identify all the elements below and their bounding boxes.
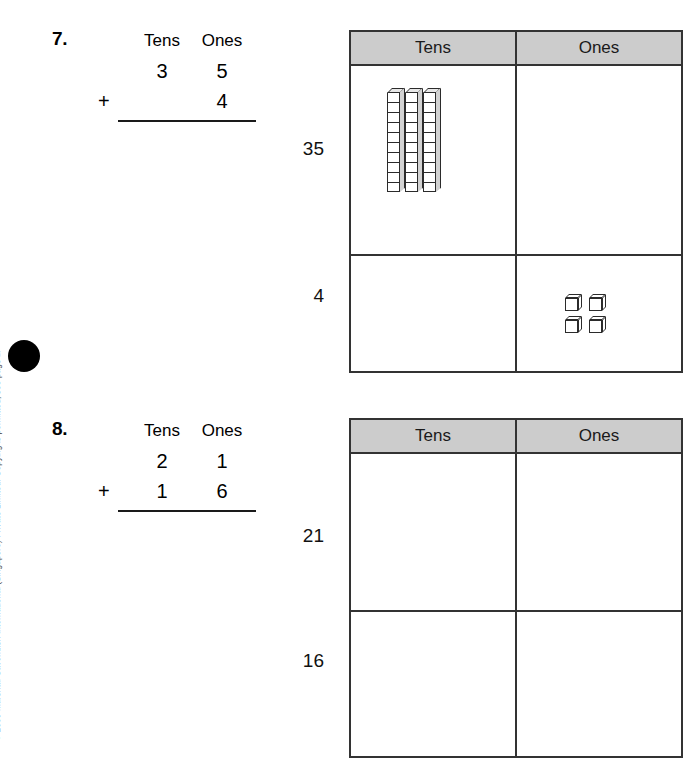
problem-7-cell-tens-2[interactable] bbox=[351, 256, 517, 371]
problem-8-number: 8. bbox=[52, 418, 67, 440]
sum-addend2-row: + 4 bbox=[98, 86, 258, 116]
problem-7-table-row-2 bbox=[351, 254, 681, 371]
unit-cube-icon bbox=[565, 294, 582, 311]
problem-8-table-row-1 bbox=[351, 454, 681, 610]
problem-8-row-label-1: 21 bbox=[280, 525, 324, 547]
problem-8-sum: Tens Ones 2 1 + 1 6 bbox=[98, 416, 258, 512]
page-marker-dot bbox=[8, 340, 40, 372]
tens-rod-icon bbox=[423, 92, 436, 192]
problem-7-cell-ones-1[interactable] bbox=[517, 66, 681, 254]
copyright-text: © 2009 Marshall Cavendish International … bbox=[0, 351, 2, 741]
sum-addend2-ones: 4 bbox=[192, 90, 252, 113]
sum-header-row: Tens Ones bbox=[98, 416, 258, 446]
sum-addend1-row: 2 1 bbox=[98, 446, 258, 476]
problem-8-cell-ones-1[interactable] bbox=[517, 454, 681, 610]
tens-rods-group bbox=[387, 92, 436, 192]
sum-addend2-ones: 6 bbox=[192, 480, 252, 503]
problem-7-header-tens: Tens bbox=[351, 32, 517, 64]
ones-cubes-group bbox=[565, 294, 613, 338]
problem-7-row-label-2: 4 bbox=[280, 285, 324, 307]
sum-header-tens: Tens bbox=[132, 31, 192, 51]
sum-addend1-ones: 5 bbox=[192, 60, 252, 83]
problem-8-cell-tens-2[interactable] bbox=[351, 612, 517, 758]
sum-addend1-tens: 3 bbox=[132, 60, 192, 83]
problem-7-place-value-table: Tens Ones bbox=[349, 30, 683, 373]
problem-7-row-label-1: 35 bbox=[280, 138, 324, 160]
sum-addend2-tens: 1 bbox=[132, 480, 192, 503]
sum-header-ones: Ones bbox=[192, 421, 252, 441]
problem-7-table-header: Tens Ones bbox=[351, 32, 681, 66]
sum-header-tens: Tens bbox=[132, 421, 192, 441]
sum-rule-line bbox=[118, 510, 256, 512]
problem-8-place-value-table: Tens Ones bbox=[349, 418, 683, 758]
tens-rod-icon bbox=[387, 92, 400, 192]
problem-8-row-label-2: 16 bbox=[280, 650, 324, 672]
problem-8-header-tens: Tens bbox=[351, 420, 517, 452]
sum-rule-line bbox=[118, 120, 256, 122]
unit-cube-icon bbox=[589, 294, 606, 311]
sum-header-row: Tens Ones bbox=[98, 26, 258, 56]
problem-7-header-ones: Ones bbox=[517, 32, 681, 64]
problem-7-cell-ones-2[interactable] bbox=[517, 256, 681, 371]
problem-8-table-row-2 bbox=[351, 610, 681, 758]
unit-cube-icon bbox=[565, 316, 582, 333]
sum-addend1-ones: 1 bbox=[192, 450, 252, 473]
unit-cube-icon bbox=[589, 316, 606, 333]
problem-8-header-ones: Ones bbox=[517, 420, 681, 452]
problem-7-sum: Tens Ones 3 5 + 4 bbox=[98, 26, 258, 122]
problem-8-cell-tens-1[interactable] bbox=[351, 454, 517, 610]
copyright-strip: © 2009 Marshall Cavendish International … bbox=[0, 0, 22, 745]
problem-8-cell-ones-2[interactable] bbox=[517, 612, 681, 758]
problem-8-table-header: Tens Ones bbox=[351, 420, 681, 454]
sum-plus-sign: + bbox=[98, 480, 132, 503]
tens-rod-icon bbox=[405, 92, 418, 192]
problem-7-cell-tens-1[interactable] bbox=[351, 66, 517, 254]
sum-addend1-tens: 2 bbox=[132, 450, 192, 473]
sum-plus-sign: + bbox=[98, 90, 132, 113]
sum-addend1-row: 3 5 bbox=[98, 56, 258, 86]
sum-addend2-row: + 1 6 bbox=[98, 476, 258, 506]
sum-header-ones: Ones bbox=[192, 31, 252, 51]
problem-7-table-row-1 bbox=[351, 66, 681, 254]
problem-7-number: 7. bbox=[52, 28, 67, 50]
